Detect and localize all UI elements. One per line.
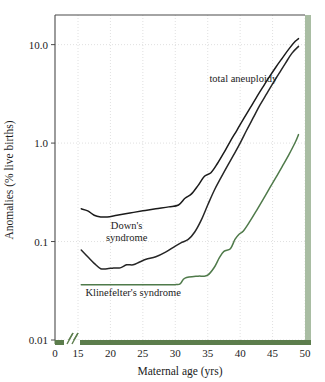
x-tick-label: 20 [105, 347, 117, 359]
y-tick-label: 10.0 [29, 39, 49, 51]
series-annotation-label: syndrome [106, 232, 148, 243]
series-annotation-label: total aneuploidy [209, 73, 278, 84]
series-annotation-label: Klinefelter's syndrome [85, 287, 181, 298]
x-tick-label: 50 [300, 347, 312, 359]
x-tick-label: 15 [73, 347, 85, 359]
chart-figure: 0152025303540455010.01.00.10.01 total an… [0, 0, 325, 382]
y-tick-label: 0.1 [34, 236, 48, 248]
x-tick-label: 25 [137, 347, 149, 359]
y-tick-label: 1.0 [34, 137, 48, 149]
y-axis-title: Anomalies (% live births) [3, 120, 16, 239]
anomalies-vs-maternal-age-chart: 0152025303540455010.01.00.10.01 total an… [0, 0, 325, 382]
chart-background [0, 0, 325, 382]
x-tick-label: 0 [52, 347, 58, 359]
x-tick-label: 30 [170, 347, 182, 359]
y-tick-label: 0.01 [29, 334, 48, 346]
series-annotation-label: Down's [111, 220, 143, 231]
x-tick-label: 35 [202, 347, 214, 359]
x-axis-title: Maternal age (yrs) [138, 365, 223, 378]
x-tick-label: 40 [235, 347, 247, 359]
x-tick-label: 45 [267, 347, 279, 359]
right-axis-bar [305, 15, 311, 344]
